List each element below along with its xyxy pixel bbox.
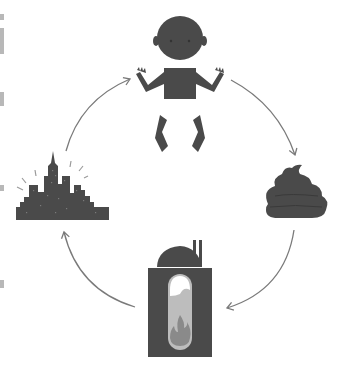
baby-arm-right	[196, 72, 224, 92]
ray	[22, 178, 26, 183]
baby-torso	[164, 68, 196, 99]
incinerator-chimney	[199, 240, 202, 267]
cycle-diagram	[0, 0, 349, 366]
baby-hand-right	[215, 67, 224, 73]
arrow-poop-to-incinerator	[227, 230, 294, 308]
arrow-city-to-baby	[66, 79, 130, 151]
poop-icon	[266, 165, 327, 218]
poop-body	[266, 165, 327, 218]
baby-ear-left	[153, 36, 159, 46]
skyline-silhouette	[16, 151, 109, 220]
baby-eye-right	[188, 40, 190, 42]
baby-icon	[136, 16, 224, 152]
incinerator-icon	[148, 240, 212, 357]
ray	[17, 187, 23, 190]
city-skyline-icon	[16, 151, 109, 220]
city-buildings	[16, 151, 109, 220]
baby-eye-left	[170, 40, 172, 42]
arrow-baby-to-poop	[231, 80, 295, 155]
incinerator-chimney	[193, 240, 196, 267]
arrow-incinerator-to-city	[64, 232, 135, 307]
ray	[79, 166, 83, 171]
baby-foot-left	[155, 115, 168, 152]
baby-foot-right	[192, 115, 205, 152]
baby-arm-left	[136, 72, 164, 92]
baby-hand-left	[137, 67, 146, 73]
ray	[84, 176, 88, 178]
ray	[35, 170, 36, 176]
baby-ear-right	[201, 36, 207, 46]
baby-head	[157, 16, 203, 60]
ray	[70, 161, 71, 167]
